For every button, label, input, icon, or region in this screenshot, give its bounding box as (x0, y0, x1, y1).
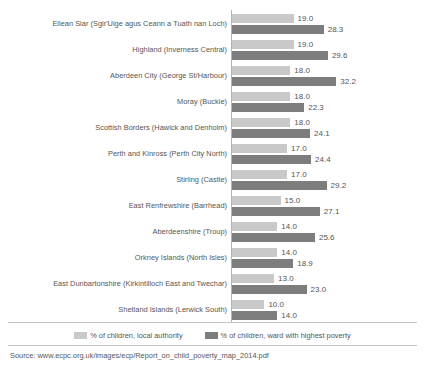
bar (232, 285, 307, 294)
bar (232, 222, 277, 231)
bar-series-2: 29.2 (232, 181, 346, 190)
bar (232, 14, 294, 23)
bar-group: 19.028.3 (231, 10, 425, 36)
chart-row: Highland (Inverness Central)19.029.6 (0, 36, 425, 62)
bar (232, 40, 294, 49)
bar-value-label: 13.0 (278, 274, 294, 283)
chart-row: Perth and Kinross (Perth City North)17.0… (0, 140, 425, 166)
bar-series-2: 29.6 (232, 51, 347, 60)
category-label: Highland (Inverness Central) (0, 45, 231, 54)
chart-row: East Dunbartonshire (Kirkintilloch East … (0, 270, 425, 296)
chart-row: Shetland Islands (Lerwick South)10.014.0 (0, 296, 425, 322)
bar-series-2: 24.4 (232, 155, 331, 164)
bar-value-label: 18.0 (294, 92, 310, 101)
chart-legend: % of children, local authority% of child… (0, 328, 425, 342)
bar-series-2: 32.2 (232, 77, 356, 86)
bar-series-2: 27.1 (232, 207, 339, 216)
category-label: Aberdeenshire (Troup) (0, 227, 231, 236)
chart-row: Scottish Borders (Hawick and Denholm)18.… (0, 114, 425, 140)
bar-group: 15.027.1 (231, 192, 425, 218)
bar-value-label: 29.2 (331, 181, 347, 190)
legend-item-1: % of children, local authority (74, 331, 182, 340)
bar-series-1: 19.0 (232, 14, 313, 23)
bar-value-label: 18.0 (294, 118, 310, 127)
bar-value-label: 29.6 (332, 51, 348, 60)
bar-series-1: 13.0 (232, 274, 294, 283)
category-label: Scottish Borders (Hawick and Denholm) (0, 123, 231, 132)
bar-value-label: 15.0 (285, 196, 301, 205)
bar-value-label: 18.0 (294, 66, 310, 75)
bar (232, 207, 320, 216)
bar-series-1: 19.0 (232, 40, 313, 49)
category-label: East Dunbartonshire (Kirkintilloch East … (0, 279, 231, 288)
bar (232, 25, 324, 34)
bar-series-2: 18.9 (232, 259, 313, 268)
bar-group: 10.014.0 (231, 296, 425, 322)
bar-group: 18.032.2 (231, 62, 425, 88)
bar (232, 129, 310, 138)
bar (232, 170, 287, 179)
bar (232, 233, 315, 242)
bar-series-1: 17.0 (232, 144, 307, 153)
bar-value-label: 27.1 (324, 207, 340, 216)
bar (232, 196, 281, 205)
chart-plot-area: Eilean Siar (Sgir'Uige agus Ceann a Tuat… (0, 10, 425, 322)
bar (232, 248, 277, 257)
bar-series-1: 14.0 (232, 222, 297, 231)
chart-row: Stirling (Castle)17.029.2 (0, 166, 425, 192)
bar-series-2: 24.1 (232, 129, 330, 138)
category-label: Orkney Islands (North Isles) (0, 253, 231, 262)
bar (232, 92, 290, 101)
bar-value-label: 18.9 (297, 259, 313, 268)
bar-group: 14.025.6 (231, 218, 425, 244)
bar-value-label: 23.0 (311, 285, 327, 294)
bar (232, 181, 327, 190)
bar-value-label: 17.0 (291, 170, 307, 179)
category-label: Perth and Kinross (Perth City North) (0, 149, 231, 158)
bar-series-1: 14.0 (232, 248, 297, 257)
bar-value-label: 25.6 (319, 233, 335, 242)
bar-group: 17.024.4 (231, 140, 425, 166)
bar-value-label: 19.0 (298, 14, 314, 23)
bar-value-label: 28.3 (328, 25, 344, 34)
chart-row: Orkney Islands (North Isles)14.018.9 (0, 244, 425, 270)
legend-divider-bottom (8, 345, 417, 346)
source-caption: Source: www.ecpc.org.uk/images/ecp/Repor… (10, 351, 269, 361)
legend-label: % of children, ward with highest poverty (221, 331, 351, 340)
bar-series-1: 18.0 (232, 66, 310, 75)
chart-row: Eilean Siar (Sgir'Uige agus Ceann a Tuat… (0, 10, 425, 36)
legend-swatch (74, 332, 87, 339)
category-label: Stirling (Castle) (0, 175, 231, 184)
bar-series-2: 25.6 (232, 233, 335, 242)
bar-group: 14.018.9 (231, 244, 425, 270)
chart-row: East Renfrewshire (Barrhead)15.027.1 (0, 192, 425, 218)
category-label: East Renfrewshire (Barrhead) (0, 201, 231, 210)
bar-series-2: 14.0 (232, 311, 297, 320)
legend-label: % of children, local authority (90, 331, 182, 340)
legend-divider-top (8, 322, 417, 323)
bar (232, 300, 264, 309)
bar-group: 13.023.0 (231, 270, 425, 296)
bar-series-2: 22.3 (232, 103, 324, 112)
bar-value-label: 14.0 (281, 311, 297, 320)
bar (232, 118, 290, 127)
bar (232, 144, 287, 153)
bar (232, 274, 274, 283)
bar (232, 103, 304, 112)
category-label: Eilean Siar (Sgir'Uige agus Ceann a Tuat… (0, 19, 231, 28)
bar-series-1: 18.0 (232, 118, 310, 127)
bar-value-label: 10.0 (268, 300, 284, 309)
category-label: Aberdeen City (George St/Harbour) (0, 71, 231, 80)
bar (232, 311, 277, 320)
bar-series-2: 28.3 (232, 25, 343, 34)
category-label: Moray (Buckie) (0, 97, 231, 106)
bar-series-1: 17.0 (232, 170, 307, 179)
bar-value-label: 14.0 (281, 222, 297, 231)
bar (232, 155, 311, 164)
bar-value-label: 19.0 (298, 40, 314, 49)
bar-series-2: 23.0 (232, 285, 326, 294)
legend-item-2: % of children, ward with highest poverty (205, 331, 351, 340)
bar-group: 18.022.3 (231, 88, 425, 114)
bar-series-1: 15.0 (232, 196, 300, 205)
bar (232, 259, 293, 268)
